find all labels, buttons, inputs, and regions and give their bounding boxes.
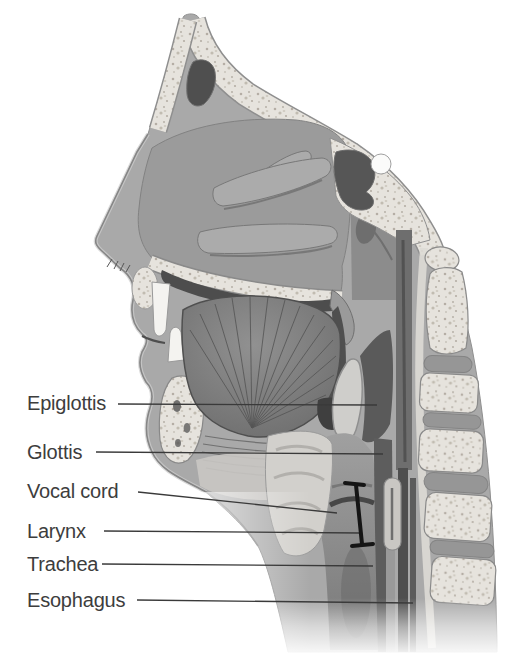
label-esophagus: Esophagus	[27, 589, 125, 611]
fade-bottom	[140, 598, 507, 656]
label-vocal-cord: Vocal cord	[27, 480, 118, 502]
pharyngeal-wall	[396, 230, 412, 470]
label-glottis: Glottis	[27, 441, 82, 463]
tongue	[182, 296, 340, 437]
label-trachea: Trachea	[27, 553, 98, 575]
label-epiglottis: Epiglottis	[27, 392, 106, 414]
anatomy-figure: Epiglottis Glottis Vocal cord Larynx Tra…	[0, 0, 507, 656]
label-larynx: Larynx	[27, 520, 86, 542]
